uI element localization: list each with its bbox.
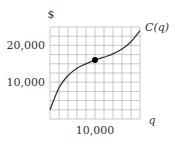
- y-axis-label: $: [48, 8, 55, 21]
- curve-label: C(q): [145, 21, 169, 34]
- x-axis-label: q: [148, 114, 155, 127]
- y-tick-label-20000: 20,000: [7, 39, 46, 52]
- y-tick-label-10000: 10,000: [7, 76, 46, 89]
- chart-grid: [50, 27, 140, 119]
- x-tick-label-10000: 10,000: [76, 124, 115, 137]
- cost-chart: $ 20,000 10,000 10,000 q C(q): [0, 0, 177, 144]
- marked-point: [92, 57, 98, 63]
